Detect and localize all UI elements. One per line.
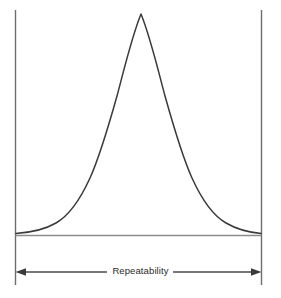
figure-container: Repeatability (0, 0, 281, 298)
dimension-arrowhead-left (16, 268, 27, 276)
normal-distribution-curve (16, 14, 261, 234)
distribution-figure (0, 0, 281, 298)
dimension-arrowhead-right (251, 268, 262, 276)
